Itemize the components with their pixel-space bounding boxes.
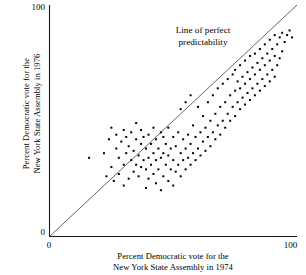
data-point	[180, 152, 182, 154]
data-point	[148, 157, 150, 159]
data-point	[274, 76, 276, 78]
data-point	[254, 73, 256, 75]
data-point	[279, 36, 281, 38]
plot-area	[0, 0, 306, 275]
data-point	[289, 29, 291, 31]
data-point	[204, 150, 206, 152]
data-point	[185, 148, 187, 150]
data-point	[254, 94, 256, 96]
data-point	[195, 159, 197, 161]
data-point	[155, 182, 157, 184]
data-point	[254, 53, 256, 55]
data-point	[155, 159, 157, 161]
data-point	[202, 141, 204, 143]
data-point	[133, 171, 135, 173]
data-point	[175, 145, 177, 147]
data-point	[190, 164, 192, 166]
data-points-layer	[88, 29, 293, 191]
data-point	[115, 148, 117, 150]
data-point	[167, 154, 169, 156]
data-point	[140, 166, 142, 168]
data-point	[217, 87, 219, 89]
data-point	[182, 159, 184, 161]
scatter-plot-figure: Percent Democratic vote for the New York…	[0, 0, 306, 275]
data-point	[232, 73, 234, 75]
data-point	[212, 131, 214, 133]
data-point	[237, 80, 239, 82]
data-point	[170, 168, 172, 170]
data-point	[224, 101, 226, 103]
data-point	[227, 113, 229, 115]
data-point	[143, 136, 145, 138]
data-point	[182, 138, 184, 140]
data-point	[140, 129, 142, 131]
data-point	[113, 180, 115, 182]
data-point	[125, 152, 127, 154]
data-point	[175, 171, 177, 173]
data-point	[150, 143, 152, 145]
data-point	[135, 122, 137, 124]
data-point	[291, 36, 293, 38]
data-point	[192, 124, 194, 126]
data-point	[177, 131, 179, 133]
data-point	[128, 178, 130, 180]
data-point	[251, 87, 253, 89]
data-point	[244, 60, 246, 62]
data-point	[123, 129, 125, 131]
data-point	[180, 175, 182, 177]
data-point	[118, 157, 120, 159]
data-point	[148, 178, 150, 180]
data-point	[281, 50, 283, 52]
x-axis-title: Percent Democratic vote for the New York…	[49, 251, 297, 273]
data-point	[249, 99, 251, 101]
data-point	[234, 69, 236, 71]
data-point	[135, 138, 137, 140]
data-point	[177, 164, 179, 166]
data-point	[281, 32, 283, 34]
data-point	[209, 145, 211, 147]
data-point	[261, 78, 263, 80]
data-point	[269, 60, 271, 62]
data-point	[143, 159, 145, 161]
data-point	[123, 164, 125, 166]
data-point	[160, 189, 162, 191]
data-point	[264, 85, 266, 87]
data-point	[242, 97, 244, 99]
data-point	[123, 185, 125, 187]
data-point	[172, 159, 174, 161]
data-point	[170, 148, 172, 150]
data-point	[234, 90, 236, 92]
data-point	[279, 57, 281, 59]
data-point	[261, 57, 263, 59]
x-axis-title-line2: New York State Assembly in 1974	[49, 262, 297, 273]
data-point	[172, 185, 174, 187]
data-point	[276, 43, 278, 45]
data-point	[242, 76, 244, 78]
data-point	[130, 159, 132, 161]
data-point	[229, 120, 231, 122]
data-point	[157, 148, 159, 150]
data-point	[103, 152, 105, 154]
data-point	[259, 69, 261, 71]
data-point	[180, 108, 182, 110]
data-point	[286, 34, 288, 36]
data-point	[232, 106, 234, 108]
data-point	[110, 166, 112, 168]
data-point	[247, 71, 249, 73]
data-point	[130, 131, 132, 133]
data-point	[259, 90, 261, 92]
data-point	[219, 134, 221, 136]
data-point	[135, 164, 137, 166]
data-point	[244, 83, 246, 85]
data-point	[269, 39, 271, 41]
data-point	[212, 94, 214, 96]
data-point	[217, 124, 219, 126]
data-point	[237, 101, 239, 103]
data-point	[276, 64, 278, 66]
data-point	[155, 138, 157, 140]
data-point	[110, 127, 112, 129]
data-point	[190, 94, 192, 96]
data-point	[202, 115, 204, 117]
data-point	[197, 148, 199, 150]
data-point	[256, 83, 258, 85]
